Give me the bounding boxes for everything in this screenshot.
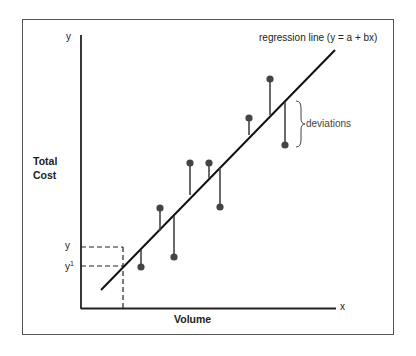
x-axis-letter: x	[340, 302, 345, 312]
data-point	[137, 263, 144, 270]
y-axis-title-line2: Cost	[33, 170, 56, 181]
data-point	[216, 203, 223, 210]
y-prime-marker-label: y1	[65, 260, 74, 272]
regression-line-label: regression line (y = a + bx)	[259, 33, 377, 43]
regression-line	[101, 50, 335, 290]
data-point	[170, 253, 177, 260]
data-point	[281, 141, 288, 148]
data-point	[266, 75, 273, 82]
data-point	[205, 159, 212, 166]
deviations-brace	[296, 101, 305, 147]
y-prime-superscript: 1	[70, 260, 74, 267]
data-point	[245, 114, 252, 121]
y-axis-letter: y	[66, 32, 71, 42]
data-points	[137, 75, 288, 270]
y-marker-label: y	[65, 241, 70, 251]
x-axis-title: Volume	[174, 314, 211, 325]
deviations-label: deviations	[306, 119, 351, 129]
data-point	[156, 204, 163, 211]
data-point	[186, 159, 193, 166]
y-axis-title-line1: Total	[33, 156, 57, 167]
regression-diagram	[0, 0, 416, 356]
